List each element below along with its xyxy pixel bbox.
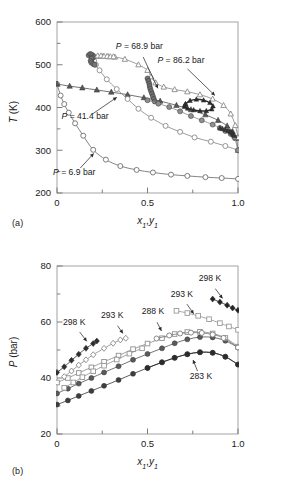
data-point	[62, 386, 67, 391]
data-point	[218, 321, 223, 326]
data-point	[185, 337, 190, 342]
annotation: 283 K	[190, 360, 213, 381]
data-point	[101, 345, 106, 351]
data-point	[236, 328, 241, 333]
annotation-label: 288 K	[142, 306, 165, 316]
x-axis-title: x1,y1	[136, 215, 158, 229]
data-point	[221, 102, 226, 107]
annotation-label: P = 6.9 bar	[53, 167, 95, 177]
data-point	[230, 305, 235, 311]
data-point	[145, 351, 150, 356]
data-point	[228, 111, 233, 116]
annotation: 293 K	[101, 310, 124, 333]
series-298-k-dew	[210, 296, 241, 313]
data-point	[210, 122, 215, 127]
data-point	[199, 118, 204, 123]
data-point	[103, 157, 108, 162]
data-point	[236, 345, 241, 350]
data-point	[233, 123, 238, 128]
data-point	[65, 398, 70, 403]
data-point	[169, 172, 174, 177]
data-point	[97, 68, 102, 73]
data-point	[127, 351, 132, 356]
data-point	[80, 375, 85, 380]
data-point	[102, 370, 107, 375]
panel-b-tag: (b)	[12, 466, 23, 476]
x-axis-tick-label: 1.0	[231, 438, 244, 449]
annotation: 298 K	[199, 273, 223, 298]
annotation-label: 298 K	[199, 273, 222, 283]
x-axis-tick-label: 0	[54, 438, 59, 449]
data-point	[102, 363, 107, 368]
data-point	[163, 123, 168, 128]
y-axis-tick-label: 500	[35, 59, 51, 70]
x-axis-tick-label: 0.5	[141, 197, 154, 208]
data-point	[172, 355, 177, 360]
data-point	[134, 167, 139, 172]
data-point	[125, 96, 130, 101]
data-point	[223, 354, 228, 359]
series-283-k-dew	[145, 350, 241, 371]
data-point	[197, 350, 202, 355]
y-axis-title: T (K)	[8, 101, 19, 123]
data-point	[150, 170, 155, 175]
annotation-arrowhead	[219, 294, 223, 298]
annotation-label: 293 K	[101, 310, 124, 320]
data-point	[159, 346, 164, 351]
data-point	[89, 376, 94, 381]
data-point	[159, 360, 164, 365]
data-point	[221, 335, 226, 340]
data-point	[118, 337, 123, 343]
data-point	[58, 93, 63, 98]
data-point	[136, 106, 141, 111]
y-axis-tick-label: 40	[40, 372, 51, 383]
data-point	[235, 307, 240, 313]
data-point	[76, 362, 81, 368]
data-point	[131, 347, 136, 352]
data-point	[225, 302, 230, 308]
x-axis-tick-label: 0	[54, 197, 59, 208]
data-point	[215, 117, 220, 122]
y-axis-tick-label: 200	[35, 187, 51, 198]
annotation-label: 283 K	[190, 371, 213, 381]
x-axis-tick-label: 1.0	[231, 197, 244, 208]
data-point	[91, 369, 96, 374]
data-point	[236, 176, 241, 181]
data-point	[178, 109, 183, 114]
annotation: P = 6.9 bar	[53, 153, 95, 176]
chart-panel-a: 20030040050060000.51.0T (K)x1,y1P = 68.9…	[0, 0, 285, 248]
data-point	[236, 362, 241, 367]
annotation-arrowhead	[190, 310, 194, 314]
data-point	[154, 336, 159, 341]
annotation: 298 K	[63, 317, 87, 341]
data-point	[83, 357, 88, 363]
data-point	[102, 383, 107, 388]
data-point	[136, 62, 141, 67]
data-point	[210, 332, 215, 337]
series-upper-open-triangles	[95, 53, 116, 59]
two-panel-phase-diagram-figure: 20030040050060000.51.0T (K)x1,y1P = 68.9…	[0, 0, 285, 496]
data-point	[196, 314, 201, 319]
data-point	[92, 62, 97, 67]
data-point	[203, 175, 208, 180]
series-p-86-2-bar-loop	[182, 97, 215, 113]
data-point	[54, 369, 59, 375]
annotation-label: P = 41.4 bar	[62, 111, 109, 121]
data-point	[199, 330, 204, 335]
data-point	[156, 101, 161, 106]
data-point	[167, 105, 172, 110]
data-point	[69, 368, 74, 374]
annotation-leader-line	[187, 69, 214, 96]
data-point	[62, 102, 67, 107]
data-point	[185, 352, 190, 357]
data-point	[118, 164, 123, 169]
data-point	[55, 402, 60, 407]
panel-a-tag: (a)	[12, 218, 23, 228]
data-point	[223, 143, 228, 148]
x-axis-tick-label: 0.5	[141, 438, 154, 449]
chart-b-svg: 2040608000.51.0P (bar)x1,y1298 K293 K288…	[0, 248, 285, 496]
data-point	[145, 98, 150, 103]
data-point	[207, 317, 212, 322]
annotation-label: P = 86.2 bar	[157, 55, 204, 65]
data-point	[185, 311, 190, 316]
